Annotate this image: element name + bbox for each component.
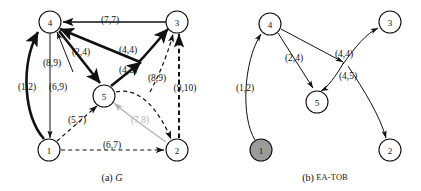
node-label: 4 [268, 20, 273, 30]
caption-a-prefix: (a) [102, 172, 113, 184]
edge-label-1-2: (1,2) [18, 82, 36, 93]
node-label: 3 [175, 18, 180, 28]
node-b1: 1 [250, 139, 272, 161]
edge-label-2-4: (2,4) [72, 47, 90, 58]
edge-label-b-4-4: (4,4) [335, 49, 353, 60]
panel-b-nodes: 4 3 5 1 2 [250, 11, 401, 161]
panel-b-edge-labels: (2,4) (4,4) (4,5) (1,2) [236, 49, 357, 94]
edge-label-5-7: (5,7) [68, 115, 86, 126]
edge-2-to-3-89 [150, 34, 173, 92]
caption-b: (b) EA-TOB [302, 172, 348, 184]
node-label: 2 [175, 146, 180, 156]
node-label: 3 [388, 18, 393, 28]
node-a2: 2 [166, 139, 188, 161]
node-label: 1 [259, 146, 264, 156]
edge-label-b-2-4: (2,4) [285, 53, 303, 64]
edge-label-b-4-5: (4,5) [339, 71, 357, 82]
node-label: 2 [388, 146, 393, 156]
edge-label-7-8: (7,8) [131, 115, 149, 126]
node-label: 5 [315, 98, 320, 108]
caption-b-prefix: (b) [302, 172, 314, 184]
node-b3: 3 [379, 11, 401, 33]
captions: (a) G (b) EA-TOB [102, 172, 349, 184]
edge-4-to-5-24 [59, 31, 100, 83]
node-a4: 4 [39, 11, 61, 33]
graph-figure-svg: 4 3 5 1 2 (7,7) (2,4) (4,4) ( [0, 0, 421, 191]
edge-label-9-10: (9,10) [174, 83, 197, 94]
edge-label-8-9-top: (8,9) [43, 58, 61, 69]
edge-label-b-1-2: (1,2) [236, 83, 254, 94]
node-a5: 5 [93, 85, 115, 107]
edge-label-7-7: (7,7) [101, 15, 119, 26]
edge-label-8-9-right: (8,9) [148, 73, 166, 84]
caption-a-text: G [115, 172, 122, 183]
edge-label-4-5: (4,5) [119, 65, 137, 76]
edge-label-4-4: (4,4) [119, 45, 137, 56]
node-label: 1 [47, 146, 52, 156]
edge-junction-to-3-44 [139, 29, 168, 62]
node-a1: 1 [38, 139, 60, 161]
node-label: 4 [48, 18, 53, 28]
figure-container: 4 3 5 1 2 (7,7) (2,4) (4,4) ( [0, 0, 421, 191]
edge-label-6-9: (6,9) [49, 82, 67, 93]
panel-b-edges [246, 28, 386, 140]
caption-a: (a) G [102, 172, 123, 184]
node-label: 5 [102, 92, 107, 102]
panel-a-edge-labels: (7,7) (2,4) (4,4) (8,9) (4,5) (8,9) (9,1… [18, 15, 197, 151]
node-a3: 3 [166, 11, 188, 33]
node-b2: 2 [379, 139, 401, 161]
edge-label-6-7: (6,7) [103, 140, 121, 151]
node-b5: 5 [306, 91, 328, 113]
node-b4: 4 [259, 13, 281, 35]
caption-b-text: EA-TOB [316, 173, 348, 182]
